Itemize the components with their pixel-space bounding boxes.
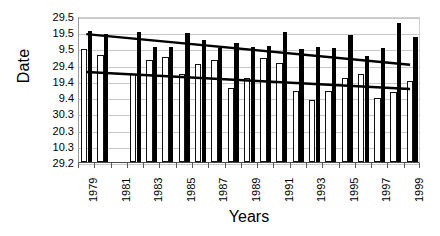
x-axis-tick-labels: 1979198119831985198719891991199319951997… — [78, 168, 420, 208]
trend-lines-layer — [79, 18, 419, 163]
x-axis-tick-label: 1985 — [186, 178, 197, 202]
y-axis-tick-labels: 29.519.59.529.419.49.430.320.310.329.2 — [30, 10, 74, 170]
y-axis-tick-label: 29.2 — [30, 158, 74, 169]
plot-area — [78, 17, 420, 163]
y-axis-tick-label: 9.4 — [30, 93, 74, 104]
y-axis-tick-label: 30.3 — [30, 109, 74, 120]
y-axis-tick-label: 29.5 — [30, 12, 74, 23]
x-axis-tick-label: 1995 — [349, 178, 360, 202]
x-axis-tick-label: 1989 — [251, 178, 262, 202]
x-axis-tick-label: 1991 — [284, 178, 295, 202]
x-axis-tick-label: 1987 — [218, 178, 229, 202]
x-axis-title: Years — [78, 208, 420, 226]
y-axis-tick-label: 10.3 — [30, 142, 74, 153]
x-axis-tick-label: 1993 — [316, 178, 327, 202]
y-axis-tick-label: 29.4 — [30, 61, 74, 72]
x-axis-tick-label: 1979 — [88, 178, 99, 202]
chart-container: Date 29.519.59.529.419.49.430.320.310.32… — [0, 0, 440, 236]
x-axis-tick-label: 1981 — [121, 178, 132, 202]
x-axis-tick-label: 1997 — [381, 178, 392, 202]
y-axis-tick-label: 19.5 — [30, 28, 74, 39]
trend-line — [86, 34, 410, 65]
trend-line — [86, 72, 410, 89]
y-axis-tick-label: 19.4 — [30, 77, 74, 88]
x-axis-tick-label: 1983 — [153, 178, 164, 202]
y-axis-tick-label: 9.5 — [30, 44, 74, 55]
y-axis-tick-label: 20.3 — [30, 126, 74, 137]
x-axis-tick-label: 1999 — [414, 178, 425, 202]
